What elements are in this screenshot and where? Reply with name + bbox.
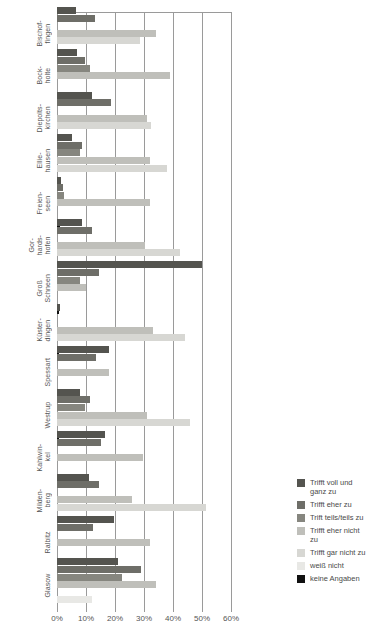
- bar: [57, 396, 90, 403]
- bar: [57, 327, 153, 334]
- x-axis-tick-mark: [115, 606, 116, 612]
- y-axis-label: Freien- seen: [0, 182, 52, 224]
- bar: [57, 177, 61, 184]
- bar: [57, 524, 93, 531]
- bar: [57, 581, 156, 588]
- x-axis-tick-mark: [57, 606, 58, 612]
- legend-item: Trifft eher zu: [297, 500, 392, 509]
- legend-label: keine Angaben: [310, 574, 360, 583]
- bar: [57, 574, 122, 581]
- bar: [57, 454, 143, 461]
- horizontal-bar-chart: Bischof- fingenBock- holteDiepolts- kirc…: [0, 0, 392, 638]
- x-axis-tick-mark: [173, 606, 174, 612]
- bar: [57, 134, 72, 141]
- legend-label: Trift teils/teils zu: [310, 513, 363, 522]
- bar-group: [57, 97, 231, 139]
- legend-label: Trifft voll und ganz zu: [310, 478, 353, 496]
- bar-group: [57, 564, 231, 606]
- legend-item: Trift teils/teils zu: [297, 513, 392, 522]
- legend-item: weiß nicht: [297, 561, 392, 570]
- x-axis-tick-mark: [86, 606, 87, 612]
- bar: [57, 192, 64, 199]
- bar-group: [57, 139, 231, 181]
- bar-group: [57, 309, 231, 351]
- bar: [57, 504, 206, 511]
- y-axis-label: Gor- hards- hofen: [0, 224, 52, 266]
- bar: [57, 481, 99, 488]
- bar-group: [57, 521, 231, 563]
- bar: [57, 37, 140, 44]
- bar: [57, 115, 147, 122]
- y-axis-label: Kahlwin- kel: [0, 436, 52, 478]
- legend-item: Trifft voll und ganz zu: [297, 478, 392, 496]
- bar-group: [57, 54, 231, 96]
- y-axis-label: Küster- dingen: [0, 309, 52, 351]
- x-axis-tick-mark: [231, 606, 232, 612]
- bar: [57, 304, 60, 311]
- bar: [57, 277, 80, 284]
- y-axis-label: Diepolts- kirchen: [0, 97, 52, 139]
- legend: Trifft voll und ganz zuTrifft eher zuTri…: [297, 478, 392, 587]
- bar: [57, 412, 147, 419]
- bar: [57, 149, 80, 156]
- bar: [57, 57, 85, 64]
- bar: [57, 431, 105, 438]
- bar: [57, 65, 90, 72]
- x-axis-tick-mark: [144, 606, 145, 612]
- bar-group: [57, 224, 231, 266]
- y-axis-label: Glasow: [0, 564, 52, 606]
- bar: [57, 261, 202, 268]
- legend-swatch: [297, 479, 305, 487]
- bar: [57, 219, 82, 226]
- bar: [57, 199, 150, 206]
- bar: [57, 419, 190, 426]
- bar: [57, 30, 156, 37]
- x-axis-tick-label: 20%: [107, 614, 123, 624]
- bar: [57, 49, 77, 56]
- bar: [57, 165, 167, 172]
- y-axis-label: Bischof- fingen: [0, 12, 52, 54]
- bar: [57, 15, 95, 22]
- y-axis-label: Westrup: [0, 394, 52, 436]
- bar-group: [57, 394, 231, 436]
- bar: [57, 496, 132, 503]
- bar: [57, 249, 180, 256]
- y-axis-label: Groß Schneen: [0, 267, 52, 309]
- bar: [57, 369, 109, 376]
- legend-label: Trifft eher nicht zu: [310, 526, 360, 544]
- legend-swatch: [297, 575, 305, 583]
- bar-group: [57, 12, 231, 54]
- bar: [57, 389, 80, 396]
- legend-swatch: [297, 501, 305, 509]
- legend-label: Trifft gar nicht zu: [310, 548, 365, 557]
- bar: [57, 99, 111, 106]
- bar: [57, 284, 86, 291]
- legend-label: Trifft eher zu: [310, 500, 352, 509]
- bar: [57, 346, 109, 353]
- bar: [57, 269, 99, 276]
- bar: [57, 157, 150, 164]
- bar: [57, 516, 114, 523]
- x-axis-tick-label: 50%: [194, 614, 210, 624]
- gridline-60: [231, 12, 232, 606]
- x-axis-tick-label: 10%: [78, 614, 94, 624]
- legend-swatch: [297, 527, 305, 535]
- bar-group: [57, 351, 231, 393]
- legend-swatch: [297, 549, 305, 557]
- legend-item: keine Angaben: [297, 574, 392, 583]
- bar: [57, 242, 145, 249]
- bar: [57, 142, 82, 149]
- x-axis-tick-label: 60%: [223, 614, 239, 624]
- y-axis-label: Ralbitz: [0, 521, 52, 563]
- legend-label: weiß nicht: [310, 561, 344, 570]
- legend-item: Trifft gar nicht zu: [297, 548, 392, 557]
- bar: [57, 558, 118, 565]
- x-axis-tick-label: 40%: [165, 614, 181, 624]
- bar: [57, 566, 141, 573]
- bar: [57, 404, 85, 411]
- x-axis-tick-mark: [202, 606, 203, 612]
- bar: [57, 7, 76, 14]
- bar: [57, 539, 150, 546]
- bar-group: [57, 479, 231, 521]
- y-axis-label: Bock- holte: [0, 54, 52, 96]
